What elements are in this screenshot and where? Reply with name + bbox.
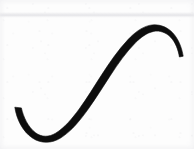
s-curve-stroke (15, 25, 183, 142)
figure-canvas (0, 0, 194, 149)
s-curve-figure (0, 0, 194, 149)
